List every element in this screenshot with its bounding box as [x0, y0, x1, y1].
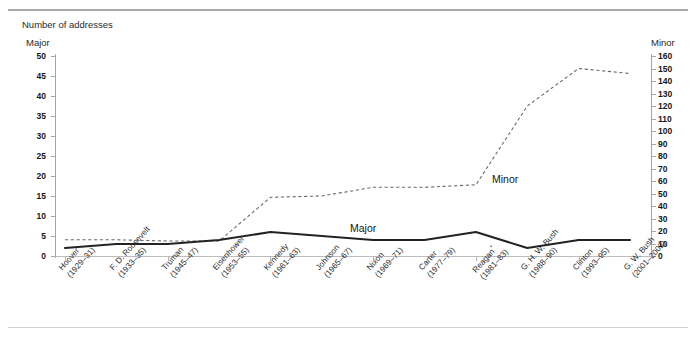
major-series-label: Major [350, 222, 376, 234]
chart-figure: Number of addresses Major Minor 05101520… [0, 0, 696, 343]
series-plot-area [0, 0, 696, 343]
minor-series-label: Minor [492, 173, 518, 185]
minor-series-line [65, 69, 630, 242]
major-series-line [65, 232, 630, 248]
